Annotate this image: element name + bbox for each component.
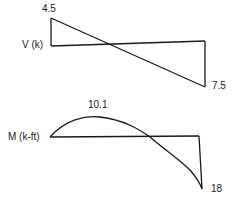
shear-baseline xyxy=(51,41,205,46)
moment-right-vertical xyxy=(199,136,202,189)
moment-curve xyxy=(50,117,202,189)
moment-min-label: 18 xyxy=(211,183,222,194)
moment-axis-label: M (k-ft) xyxy=(8,131,40,142)
moment-diagram xyxy=(50,117,202,189)
shear-diagram xyxy=(51,18,205,87)
shear-max-label: 4.5 xyxy=(42,3,56,14)
moment-baseline xyxy=(50,136,199,137)
shear-slope xyxy=(51,18,205,87)
moment-max-label: 10.1 xyxy=(88,99,107,110)
shear-axis-label: V (k) xyxy=(22,39,43,50)
shear-min-label: 7.5 xyxy=(212,80,226,91)
diagram-canvas xyxy=(0,0,237,203)
